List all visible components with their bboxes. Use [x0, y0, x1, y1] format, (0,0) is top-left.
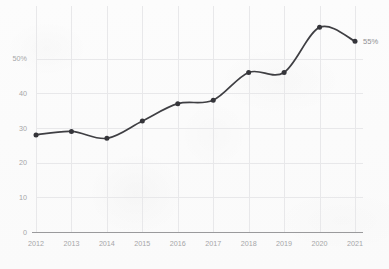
data-annotations: 55% — [363, 37, 378, 46]
y-tick-label: 30 — [19, 124, 27, 133]
grid-lines-horizontal — [36, 60, 363, 198]
x-tick-label: 2017 — [205, 239, 221, 248]
last-point-value: 55% — [363, 37, 378, 46]
y-tick-labels: 01020304050% — [13, 54, 28, 236]
chart-plot-area: 01020304050% 201220132014201520162017201… — [0, 0, 389, 269]
series-data-point — [69, 129, 74, 134]
x-tick-label: 2012 — [28, 239, 44, 248]
y-tick-label: 20 — [19, 158, 27, 167]
y-tick-label: 10 — [19, 193, 27, 202]
x-tick-labels: 2012201320142015201620172018201920202021 — [28, 239, 363, 248]
series-data-point — [353, 39, 358, 44]
series-data-point — [317, 25, 322, 30]
data-series-markers — [34, 25, 358, 141]
x-tick-label: 2020 — [312, 239, 328, 248]
series-line-path — [36, 26, 355, 138]
series-data-point — [282, 70, 287, 75]
y-tick-label: 0 — [23, 228, 27, 237]
x-tick-label: 2013 — [63, 239, 79, 248]
series-data-point — [211, 98, 216, 103]
series-data-point — [246, 70, 251, 75]
x-tick-label: 2016 — [170, 239, 186, 248]
line-chart: 01020304050% 201220132014201520162017201… — [0, 0, 389, 269]
x-tick-label: 2014 — [99, 239, 115, 248]
x-tick-label: 2021 — [347, 239, 363, 248]
series-data-point — [104, 136, 109, 141]
x-tick-label: 2019 — [276, 239, 292, 248]
series-data-point — [175, 101, 180, 106]
series-data-point — [140, 119, 145, 124]
x-tick-label: 2015 — [134, 239, 150, 248]
data-series-line — [36, 26, 355, 138]
series-data-point — [34, 132, 39, 137]
x-tick-label: 2018 — [241, 239, 257, 248]
y-tick-label: 40 — [19, 89, 27, 98]
y-tick-label: 50% — [13, 54, 28, 63]
